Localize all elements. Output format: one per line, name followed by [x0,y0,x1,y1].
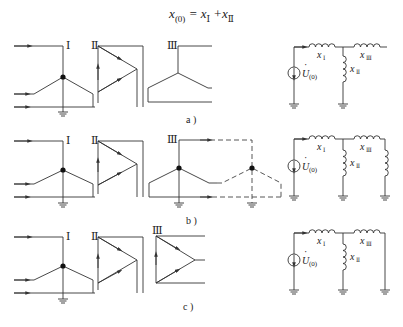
neutral-node [60,74,65,79]
row-b-transformer: Ⅰ Ⅱ Ⅲ b ) [14,133,281,227]
label-source-sub: (0) [309,260,318,268]
load-neutral-node [249,165,254,170]
ground-icon [58,112,68,116]
label-x3-sub: Ⅲ [366,147,372,153]
reactance-xII [343,56,346,82]
label-x1: x [316,49,322,60]
reactance-xI [309,136,335,139]
ground-icon [289,104,299,108]
winding-III-delta [156,236,205,283]
ground-icon [338,104,348,108]
winding-label-III: Ⅲ [152,224,163,236]
label-source-dot: · [304,59,307,70]
winding-label-II: Ⅱ [91,134,98,146]
label-x2: x [349,63,355,74]
label-x1: x [316,141,322,152]
reactance-xI [309,230,335,233]
ground-icon [380,290,390,294]
reactance-xI [309,44,335,47]
reactance-xII [343,150,346,176]
label-x3: x [359,141,365,152]
label-x2-sub: Ⅱ [356,163,360,169]
ground-icon [338,196,348,200]
winding-II-delta [98,237,143,293]
ground-icon [247,203,257,207]
reactance-xIII [354,44,380,47]
winding-label-III: Ⅲ [167,133,178,145]
winding-II-delta [98,141,143,197]
winding-I-star-grounded [14,46,95,116]
neutral-node [60,263,65,268]
winding-III-star-grounded [149,140,217,207]
row-b-equivalent-circuit: x Ⅰ x Ⅲ x Ⅱ U · (0) [288,136,390,200]
label-x3-sub: Ⅲ [366,55,372,61]
row-a-transformer: Ⅰ Ⅱ Ⅲ a ) [14,39,212,126]
ground-icon [380,196,390,200]
label-source-dot: · [304,152,307,163]
reactance-load [385,150,388,176]
label-x3-sub: Ⅲ [366,241,372,247]
label-x1: x [316,235,322,246]
label-x2-sub: Ⅱ [356,69,360,75]
winding-II-delta [98,46,143,107]
ground-icon [58,203,68,207]
label-x2: x [349,251,355,262]
reactance-xII [343,244,346,270]
label-x2-sub: Ⅱ [356,257,360,263]
ground-icon [338,290,348,294]
ground-icon [174,203,184,207]
row-a-equivalent-circuit: x Ⅰ x Ⅲ x Ⅱ U · (0) [288,44,387,108]
caption-b: b ) [186,215,197,227]
winding-label-I: Ⅰ [66,39,70,51]
reactance-xIII [354,230,380,233]
label-source-sub: (0) [309,166,318,174]
winding-I-star-grounded [14,237,95,303]
label-x2: x [349,157,355,168]
winding-label-II: Ⅱ [91,230,98,242]
ground-icon [58,299,68,303]
ground-icon [289,196,299,200]
ground-icon [289,290,299,294]
winding-label-I: Ⅰ [66,230,70,242]
external-grounded-load-dashed [210,140,281,207]
row-c-equivalent-circuit: x Ⅰ x Ⅲ x Ⅱ U · (0) [288,230,390,294]
winding-I-star-grounded [14,141,95,207]
winding-label-III: Ⅲ [167,39,178,51]
reactance-xIII [354,136,380,139]
label-x3: x [359,235,365,246]
label-x1-sub: Ⅰ [323,241,326,247]
label-source-dot: · [304,246,307,257]
winding-III-star [148,46,212,102]
label-x1-sub: Ⅰ [323,147,326,153]
caption-a: a ) [186,114,196,126]
row-c-transformer: Ⅰ Ⅱ Ⅲ c ) [14,224,205,313]
neutral-node [60,167,65,172]
caption-c: c ) [183,301,193,313]
label-x3: x [359,49,365,60]
winding-label-II: Ⅱ [91,39,98,51]
winding-label-I: Ⅰ [66,134,70,146]
label-source-sub: (0) [309,73,318,81]
neutral-node [176,165,181,170]
label-x1-sub: Ⅰ [323,55,326,61]
